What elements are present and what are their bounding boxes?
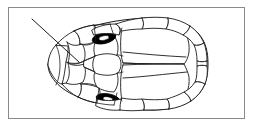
- figure-root: Dorsal view of a snake head showing head…: [0, 0, 254, 128]
- frontal-scale: [93, 54, 121, 76]
- nuchal-scales: [197, 61, 207, 66]
- snake-head-dorsal-diagram: [0, 0, 254, 128]
- parietal-scales: [121, 23, 190, 106]
